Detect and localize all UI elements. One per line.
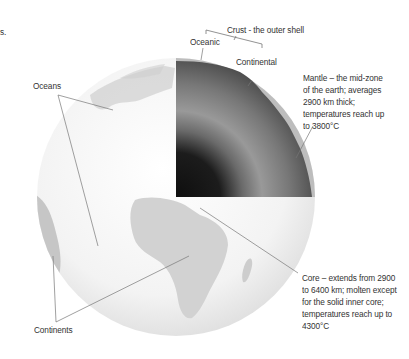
- continental-crust-label: Continental: [236, 56, 277, 68]
- core-description: Core – extends from 2900 to 6400 km; mol…: [302, 272, 397, 332]
- earth-structure-diagram: s. Crust - the outer shell Oceanic Conti…: [0, 0, 409, 359]
- cropped-text-fragment: s.: [0, 26, 6, 38]
- oceanic-crust-label: Oceanic: [190, 36, 220, 48]
- crust-label: Crust - the outer shell: [227, 24, 304, 36]
- mantle-description: Mantle – the mid-zone of the earth; aver…: [303, 72, 384, 132]
- continents-label: Continents: [34, 324, 73, 336]
- oceans-label: Oceans: [33, 80, 61, 92]
